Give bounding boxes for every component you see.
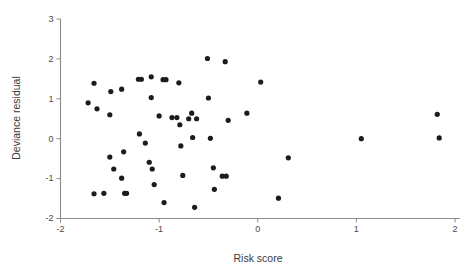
data-point [206, 95, 211, 100]
data-points-group [86, 56, 442, 210]
data-point [161, 200, 166, 205]
y-tick-label: -1 [45, 173, 53, 183]
x-tick-label: 1 [354, 224, 359, 234]
data-point [137, 131, 142, 136]
data-point [157, 113, 162, 118]
data-point [119, 176, 124, 181]
data-point [139, 77, 144, 82]
x-axis-ticks: -2-1012 [56, 219, 457, 234]
data-point [212, 187, 217, 192]
data-point [226, 118, 231, 123]
x-tick-label: 2 [452, 224, 457, 234]
data-point [150, 166, 155, 171]
data-point [124, 191, 129, 196]
data-point [107, 154, 112, 159]
data-point [258, 79, 263, 84]
data-point [152, 182, 157, 187]
data-point [180, 173, 185, 178]
data-point [220, 174, 225, 179]
y-tick-label: 1 [48, 94, 53, 104]
data-point [244, 111, 249, 116]
y-tick-label: 0 [48, 134, 53, 144]
data-point [276, 196, 281, 201]
x-axis-label: Risk score [233, 252, 282, 264]
data-point [86, 100, 91, 105]
x-tick-label: -1 [155, 224, 163, 234]
y-tick-label: -2 [45, 213, 53, 223]
data-point [111, 166, 116, 171]
data-point [211, 165, 216, 170]
data-point [435, 112, 440, 117]
data-point [178, 143, 183, 148]
data-point [189, 111, 194, 116]
data-point [121, 149, 126, 154]
y-tick-label: 2 [48, 54, 53, 64]
y-tick-label: 3 [48, 14, 53, 24]
data-point [359, 136, 364, 141]
y-axis-label: Deviance residual [10, 76, 22, 159]
data-point [186, 116, 191, 121]
data-point [177, 122, 182, 127]
data-point [174, 115, 179, 120]
data-point [192, 205, 197, 210]
data-point [176, 80, 181, 85]
data-point [108, 89, 113, 94]
data-point [119, 87, 124, 92]
plot-canvas: -2-10123 -2-1012 Risk score Deviance res… [0, 0, 473, 280]
data-point [223, 59, 228, 64]
data-point [149, 74, 154, 79]
data-point [205, 56, 210, 61]
data-point [143, 140, 148, 145]
data-point [94, 106, 99, 111]
x-tick-label: -2 [56, 224, 64, 234]
scatter-plot-figure: -2-10123 -2-1012 Risk score Deviance res… [0, 0, 473, 280]
data-point [194, 116, 199, 121]
data-point [190, 135, 195, 140]
data-point [163, 77, 168, 82]
data-point [101, 191, 106, 196]
data-point [286, 155, 291, 160]
data-point [437, 135, 442, 140]
data-point [91, 191, 96, 196]
data-point [149, 95, 154, 100]
data-point [147, 160, 152, 165]
data-point [107, 112, 112, 117]
data-point [91, 81, 96, 86]
data-point [208, 136, 213, 141]
x-tick-label: 0 [255, 224, 260, 234]
data-point [169, 115, 174, 120]
y-axis-ticks: -2-10123 [45, 14, 60, 224]
